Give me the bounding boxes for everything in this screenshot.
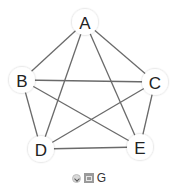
node-label: A <box>79 14 91 33</box>
node-label: B <box>16 72 27 91</box>
expand-icon[interactable] <box>72 174 81 183</box>
edge-b-c <box>22 80 155 82</box>
edge-d-e <box>41 147 140 149</box>
node-label: D <box>35 141 47 160</box>
edge-a-e <box>85 22 140 147</box>
node-b: B <box>9 67 35 93</box>
node-a: A <box>72 9 98 35</box>
edges-group <box>22 22 155 149</box>
node-e: E <box>127 134 153 160</box>
node-label: E <box>134 139 145 158</box>
edge-a-d <box>41 22 85 149</box>
caption-label: G <box>97 172 106 184</box>
edge-a-c <box>85 22 155 82</box>
node-label: C <box>149 74 161 93</box>
node-d: D <box>28 136 54 162</box>
image-icon[interactable] <box>84 173 94 183</box>
nodes-group: ABCDE <box>9 9 168 162</box>
graph-diagram: ABCDE <box>0 0 178 168</box>
node-c: C <box>142 69 168 95</box>
caption-bar: G <box>0 171 178 185</box>
